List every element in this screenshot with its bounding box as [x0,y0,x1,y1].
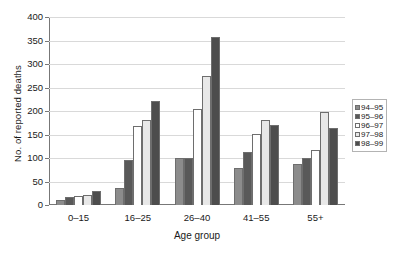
legend-item: 94–95 [355,103,383,112]
bar [261,120,270,205]
bar [252,134,261,205]
legend: 94–9595–9696–9797–9898–99 [352,99,387,152]
bar [56,200,65,205]
bar [175,158,184,205]
y-axis-title: No. of reported deaths [12,34,23,194]
y-axis-tick-label: 400 [27,12,43,22]
bar-group: 55+ [286,17,345,205]
bar [329,128,338,205]
legend-swatch [355,132,360,137]
plot-area: 050100150200250300350400 0–1516–2526–404… [49,17,345,205]
x-axis-tick-label: 41–55 [243,212,269,223]
legend-label: 97–98 [361,130,383,139]
bar [65,197,74,205]
bar [211,37,220,205]
bar [193,109,202,205]
legend-label: 94–95 [361,103,383,112]
y-axis-tick-label: 200 [27,106,43,116]
bar [311,150,320,205]
bar [234,168,243,205]
y-axis-tick-label: 150 [27,130,43,140]
legend-swatch [355,114,360,119]
bar [151,101,160,205]
legend-swatch [355,105,360,110]
bar-groups: 0–1516–2526–4041–5555+ [49,17,345,205]
x-axis-tick-label: 0–15 [68,212,89,223]
bar [74,196,83,205]
bar [83,195,92,205]
bar [115,188,124,205]
bar [124,160,133,205]
legend-swatch [355,141,360,146]
legend-item: 97–98 [355,130,383,139]
legend-item: 96–97 [355,121,383,130]
x-axis-tick-label: 55+ [307,212,323,223]
legend-label: 96–97 [361,121,383,130]
bar-group: 16–25 [108,17,167,205]
x-axis-tick-label: 26–40 [184,212,210,223]
x-axis-title: Age group [49,230,345,241]
bar-group: 26–40 [167,17,226,205]
x-axis-tick-label: 16–25 [125,212,151,223]
bar [202,76,211,205]
y-axis-tick-label: 50 [32,177,43,187]
y-axis-tick [45,205,49,206]
bar [243,152,252,205]
bar [142,120,151,205]
bar [92,191,101,205]
bar [293,164,302,205]
bar [320,112,329,205]
legend-item: 95–96 [355,112,383,121]
bar [302,158,311,205]
y-axis-tick-label: 0 [38,200,43,210]
legend-label: 98–99 [361,139,383,148]
bar [184,158,193,205]
legend-swatch [355,123,360,128]
y-axis-tick-label: 350 [27,36,43,46]
bar-chart-figure: No. of reported deaths 05010015020025030… [0,0,415,258]
bar [133,126,142,205]
y-axis-tick-label: 100 [27,153,43,163]
bar-group: 0–15 [49,17,108,205]
legend-label: 95–96 [361,112,383,121]
bar-group: 41–55 [227,17,286,205]
y-axis-tick-label: 250 [27,83,43,93]
legend-item: 98–99 [355,139,383,148]
bar [270,125,279,205]
y-axis-tick-label: 300 [27,59,43,69]
